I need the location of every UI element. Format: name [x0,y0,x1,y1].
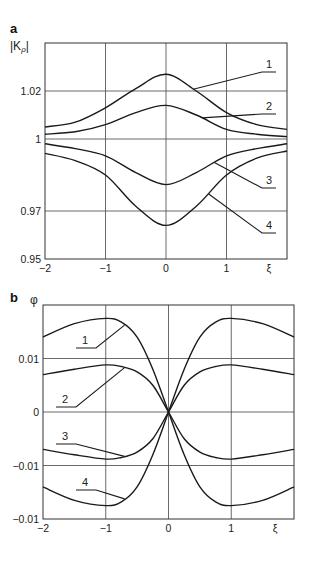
panel-a-y-tick-label: 1.02 [21,85,42,97]
panel-b-x-tick-label: −1 [100,522,112,534]
figure: a |Kρ| −2−101ξ0.950.9711.02 1234 b φ −2−… [0,0,310,561]
panel-b-curve-4-leader [76,490,125,499]
panel-a-x-axis-label: ξ [266,262,271,274]
panel-a-y-tick-label: 0.95 [21,253,42,265]
panel-b-y-tick-label: −0.01 [12,513,39,525]
panel-b-curve-3-leader [56,444,125,456]
panel-b-label: b [10,290,18,305]
panel-a-x-tick-label: 1 [224,262,230,274]
panel-a-chart: a |Kρ| −2−101ξ0.950.9711.02 1234 [10,21,287,274]
panel-b-y-tick-label: 0.01 [19,353,40,365]
panel-b-y-tick-label: −0.01 [12,460,39,472]
panel-a-curve-1-label: 1 [266,58,272,70]
panel-a-y-tick-label: 1 [35,133,41,145]
panel-b-curve-3-label: 3 [62,430,68,442]
panel-a-curve-3-label: 3 [266,174,272,186]
panel-b-y-tick-label: 0 [33,406,39,418]
panel-a-x-tick-label: 0 [163,262,169,274]
panel-a-x-tick-label: −1 [100,262,112,274]
panel-b-x-tick-label: 0 [166,522,172,534]
panel-a-label: a [10,21,18,36]
panel-b-curve-1-label: 1 [82,334,88,346]
panel-a-curve-2-label: 2 [266,100,272,112]
panel-a-curve-4-label: 4 [266,219,272,231]
panel-b-curve-4-label: 4 [82,476,88,488]
panel-a-y-tick-label: 0.97 [21,205,42,217]
panel-a-y-axis-label: |Kρ| [10,39,29,54]
panel-a-curve-2-leader [202,114,276,118]
panel-b-x-tick-label: 1 [228,522,234,534]
panel-b-x-axis-label: ξ [273,522,278,534]
panel-b-chart: b φ −2−101ξ−0.01−0.0100.01 1234 [10,290,294,534]
panel-b-y-axis-label: φ [30,293,38,307]
panel-a-curve-1-leader [193,72,276,89]
panel-b-curve-2-label: 2 [62,393,68,405]
